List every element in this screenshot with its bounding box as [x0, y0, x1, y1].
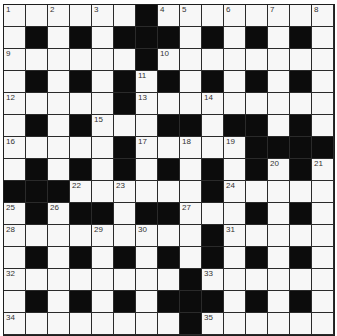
crossword-cell[interactable]	[158, 269, 180, 291]
crossword-cell[interactable]: 6	[224, 5, 246, 27]
crossword-cell[interactable]	[246, 313, 268, 335]
crossword-cell[interactable]	[70, 137, 92, 159]
crossword-cell[interactable]	[136, 269, 158, 291]
crossword-cell[interactable]	[268, 225, 290, 247]
crossword-cell[interactable]: 32	[4, 269, 26, 291]
crossword-cell[interactable]	[92, 247, 114, 269]
crossword-cell[interactable]: 3	[92, 5, 114, 27]
crossword-cell[interactable]	[70, 49, 92, 71]
crossword-cell[interactable]	[312, 27, 334, 49]
crossword-cell[interactable]	[224, 27, 246, 49]
crossword-cell[interactable]: 12	[4, 93, 26, 115]
crossword-cell[interactable]	[224, 71, 246, 93]
crossword-cell[interactable]: 34	[4, 313, 26, 335]
crossword-cell[interactable]	[4, 115, 26, 137]
crossword-cell[interactable]	[224, 313, 246, 335]
crossword-cell[interactable]	[26, 313, 48, 335]
crossword-cell[interactable]	[312, 93, 334, 115]
crossword-cell[interactable]	[92, 93, 114, 115]
crossword-cell[interactable]	[224, 203, 246, 225]
crossword-cell[interactable]	[246, 93, 268, 115]
crossword-cell[interactable]	[136, 115, 158, 137]
crossword-cell[interactable]	[180, 93, 202, 115]
crossword-cell[interactable]	[268, 313, 290, 335]
crossword-cell[interactable]	[114, 203, 136, 225]
crossword-cell[interactable]	[312, 247, 334, 269]
crossword-cell[interactable]	[158, 181, 180, 203]
crossword-cell[interactable]	[224, 291, 246, 313]
crossword-cell[interactable]	[268, 93, 290, 115]
crossword-cell[interactable]	[48, 225, 70, 247]
crossword-cell[interactable]	[158, 137, 180, 159]
crossword-cell[interactable]	[290, 269, 312, 291]
crossword-cell[interactable]	[92, 71, 114, 93]
crossword-cell[interactable]	[268, 27, 290, 49]
crossword-cell[interactable]	[26, 137, 48, 159]
crossword-cell[interactable]: 13	[136, 93, 158, 115]
crossword-cell[interactable]	[136, 291, 158, 313]
crossword-cell[interactable]	[136, 159, 158, 181]
crossword-cell[interactable]	[246, 5, 268, 27]
crossword-cell[interactable]	[268, 203, 290, 225]
crossword-cell[interactable]	[136, 313, 158, 335]
crossword-cell[interactable]	[48, 27, 70, 49]
crossword-cell[interactable]: 2	[48, 5, 70, 27]
crossword-cell[interactable]	[268, 269, 290, 291]
crossword-cell[interactable]	[246, 181, 268, 203]
crossword-cell[interactable]	[70, 225, 92, 247]
crossword-cell[interactable]	[92, 137, 114, 159]
crossword-cell[interactable]	[114, 225, 136, 247]
crossword-cell[interactable]	[180, 159, 202, 181]
crossword-cell[interactable]	[224, 159, 246, 181]
crossword-cell[interactable]	[48, 71, 70, 93]
crossword-cell[interactable]	[26, 225, 48, 247]
crossword-cell[interactable]: 15	[92, 115, 114, 137]
crossword-cell[interactable]	[48, 115, 70, 137]
crossword-cell[interactable]: 11	[136, 71, 158, 93]
crossword-cell[interactable]: 19	[224, 137, 246, 159]
crossword-cell[interactable]	[202, 49, 224, 71]
crossword-cell[interactable]	[224, 247, 246, 269]
crossword-cell[interactable]: 4	[158, 5, 180, 27]
crossword-cell[interactable]	[48, 137, 70, 159]
crossword-cell[interactable]: 25	[4, 203, 26, 225]
crossword-cell[interactable]: 7	[268, 5, 290, 27]
crossword-cell[interactable]: 29	[92, 225, 114, 247]
crossword-cell[interactable]	[246, 269, 268, 291]
crossword-cell[interactable]	[268, 291, 290, 313]
crossword-cell[interactable]	[4, 71, 26, 93]
crossword-cell[interactable]: 30	[136, 225, 158, 247]
crossword-cell[interactable]	[4, 159, 26, 181]
crossword-cell[interactable]	[268, 181, 290, 203]
crossword-cell[interactable]	[312, 71, 334, 93]
crossword-cell[interactable]: 1	[4, 5, 26, 27]
crossword-cell[interactable]	[224, 49, 246, 71]
crossword-cell[interactable]	[246, 225, 268, 247]
crossword-cell[interactable]	[312, 49, 334, 71]
crossword-cell[interactable]	[180, 27, 202, 49]
crossword-cell[interactable]	[180, 49, 202, 71]
crossword-cell[interactable]	[202, 137, 224, 159]
crossword-cell[interactable]	[92, 27, 114, 49]
crossword-cell[interactable]	[158, 313, 180, 335]
crossword-cell[interactable]: 21	[312, 159, 334, 181]
crossword-cell[interactable]	[158, 93, 180, 115]
crossword-cell[interactable]	[26, 5, 48, 27]
crossword-cell[interactable]	[4, 291, 26, 313]
crossword-cell[interactable]: 9	[4, 49, 26, 71]
crossword-cell[interactable]	[4, 247, 26, 269]
crossword-cell[interactable]	[290, 225, 312, 247]
crossword-cell[interactable]: 10	[158, 49, 180, 71]
crossword-cell[interactable]: 5	[180, 5, 202, 27]
crossword-cell[interactable]	[180, 181, 202, 203]
crossword-cell[interactable]	[290, 49, 312, 71]
crossword-cell[interactable]	[92, 269, 114, 291]
crossword-cell[interactable]	[312, 115, 334, 137]
crossword-cell[interactable]: 17	[136, 137, 158, 159]
crossword-cell[interactable]: 22	[70, 181, 92, 203]
crossword-cell[interactable]	[312, 203, 334, 225]
crossword-cell[interactable]	[4, 27, 26, 49]
crossword-cell[interactable]	[312, 269, 334, 291]
crossword-cell[interactable]	[312, 225, 334, 247]
crossword-cell[interactable]	[26, 93, 48, 115]
